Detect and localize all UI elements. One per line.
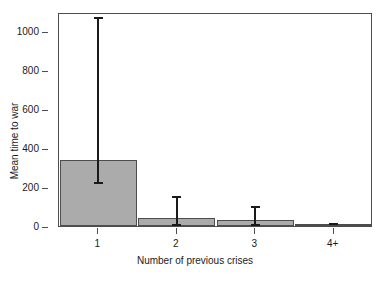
x-tick-label: 3	[251, 238, 257, 249]
x-tick-label: 1	[94, 238, 100, 249]
error-bar-stem	[254, 207, 256, 225]
y-tick-label: 0	[33, 222, 39, 232]
error-bar-stem	[97, 18, 99, 183]
plot-area	[59, 14, 371, 226]
chart-figure: 02004006008001000 Mean time to war Numbe…	[0, 0, 390, 281]
x-tick-mark	[254, 228, 255, 234]
y-tick-label: 600	[22, 105, 39, 115]
y-tick-mark	[42, 71, 48, 72]
y-tick-mark	[42, 188, 48, 189]
x-tick-mark	[333, 228, 334, 234]
y-tick-label: 400	[22, 144, 39, 154]
error-bar	[249, 207, 261, 226]
y-tick-mark	[42, 110, 48, 111]
y-tick-mark	[42, 149, 48, 150]
y-tick-label: 200	[22, 183, 39, 193]
y-tick-label: 800	[22, 66, 39, 76]
error-bar-cap-upper	[251, 206, 260, 208]
error-bar-cap-upper	[94, 17, 103, 19]
error-bar	[92, 18, 104, 226]
y-tick-mark	[42, 32, 48, 33]
error-bar-cap-upper	[329, 223, 338, 225]
error-bar	[171, 197, 183, 226]
x-tick-label: 4+	[327, 238, 338, 249]
x-tick-label: 2	[173, 238, 179, 249]
y-tick-mark	[42, 227, 48, 228]
x-tick-mark	[176, 228, 177, 234]
error-bar-cap-lower	[94, 182, 103, 184]
y-axis-title: Mean time to war	[9, 81, 20, 201]
error-bar-cap-lower	[251, 224, 260, 226]
error-bar-cap-upper	[172, 196, 181, 198]
y-tick-label: 1000	[17, 27, 39, 37]
error-bar	[328, 224, 340, 226]
error-bar-cap-lower	[172, 224, 181, 226]
x-axis-title: Number of previous crises	[0, 255, 390, 266]
error-bar-stem	[176, 197, 178, 225]
plot-frame	[58, 13, 372, 227]
x-tick-mark	[97, 228, 98, 234]
